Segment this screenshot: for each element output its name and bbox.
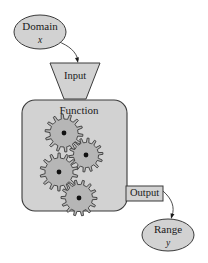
range-variable-label: y — [165, 238, 171, 248]
output-label: Output — [130, 187, 159, 198]
domain-label: Domain — [22, 20, 58, 32]
gear-hub — [84, 153, 89, 158]
diagram-canvas: Domain x Input Function Output Range y — [0, 0, 208, 263]
node-function[interactable]: Function — [22, 100, 127, 216]
function-label: Function — [59, 104, 99, 116]
function-machine-diagram: Domain x Input Function Output Range y — [0, 0, 208, 263]
domain-variable-label: x — [37, 35, 43, 45]
gear-hub — [77, 196, 82, 201]
input-label: Input — [64, 70, 86, 81]
node-input[interactable]: Input — [50, 63, 100, 99]
gear-hub — [57, 170, 62, 175]
arrow-domain-to-input — [57, 41, 79, 63]
node-domain[interactable]: Domain x — [14, 15, 66, 49]
node-output[interactable]: Output — [126, 186, 163, 201]
range-label: Range — [154, 223, 182, 235]
arrow-output-to-range — [163, 191, 174, 219]
node-range[interactable]: Range y — [142, 219, 194, 251]
gear-hub — [62, 131, 67, 136]
